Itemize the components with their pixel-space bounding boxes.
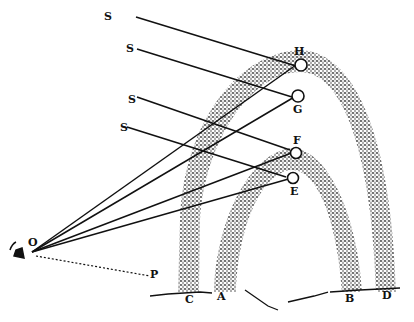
label-g: G: [293, 103, 302, 116]
label-h: H: [294, 45, 304, 58]
drop-f: [291, 148, 302, 159]
eye-icon: [10, 242, 24, 258]
label-s4: S: [120, 121, 128, 134]
label-e: E: [290, 185, 298, 198]
drop-h: [295, 59, 307, 71]
sun-rays: [127, 17, 296, 177]
label-c: C: [185, 293, 194, 306]
label-s3: S: [128, 93, 136, 106]
label-p: P: [150, 268, 158, 281]
inner-bow-arc: [214, 148, 362, 292]
drop-g: [292, 90, 304, 102]
label-o: O: [28, 236, 38, 249]
label-s1: S: [104, 10, 112, 23]
label-b: B: [345, 292, 354, 305]
outer-bow-arc: [178, 50, 396, 292]
label-d: D: [382, 289, 392, 302]
sight-lines: [32, 65, 296, 252]
horizon-line: [36, 256, 150, 276]
label-f: F: [293, 134, 301, 147]
label-a: A: [216, 290, 226, 303]
rainbow-diagram: S S S S H G F E O P C A B D: [0, 0, 414, 322]
drop-e: [288, 173, 299, 184]
label-s2: S: [126, 42, 134, 55]
